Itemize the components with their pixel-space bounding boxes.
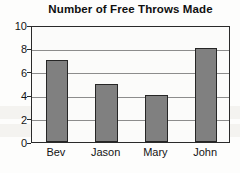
x-tick-label: John [193,146,217,158]
y-tick-label: 2 [0,114,27,126]
y-tick-label: 8 [0,43,27,55]
bar-chart-figure: Number of Free Throws Made 0246810 BevJa… [0,0,240,173]
y-axis: 0246810 [0,26,27,143]
bar [95,84,118,143]
y-tick-label: 10 [0,20,27,32]
plot-area [31,26,230,143]
y-tick-label: 6 [0,67,27,79]
y-tick-label: 4 [0,90,27,102]
x-tick-label: Mary [143,146,167,158]
bar [145,95,168,142]
bar [46,60,69,142]
x-tick-label: Jason [91,146,120,158]
x-tick-label: Bev [46,146,65,158]
y-tick-label: 0 [0,137,27,149]
chart-title: Number of Free Throws Made [31,3,230,15]
bar [195,48,218,142]
x-axis: BevJasonMaryJohn [31,146,230,162]
